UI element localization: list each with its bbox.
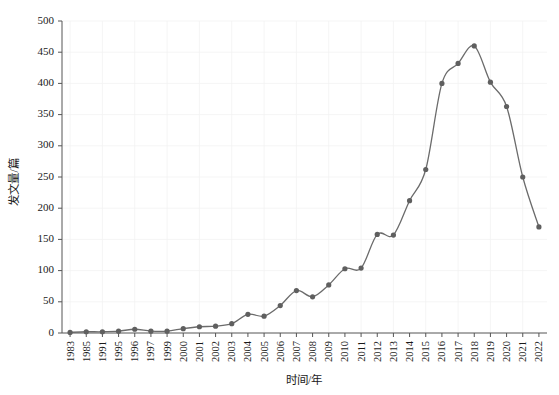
y-tick-label: 150 bbox=[38, 232, 55, 244]
x-tick-label: 2004 bbox=[242, 340, 253, 362]
data-point-marker bbox=[67, 330, 72, 335]
y-tick-label: 0 bbox=[49, 326, 55, 338]
x-tick-label: 2017 bbox=[453, 341, 464, 362]
y-axis-ticks-group bbox=[58, 21, 62, 333]
data-point-marker bbox=[488, 80, 493, 85]
data-point-marker bbox=[164, 329, 169, 334]
x-tick-label: 2002 bbox=[210, 341, 221, 362]
x-tick-label: 1983 bbox=[65, 341, 76, 362]
x-axis-title: 时间/年 bbox=[286, 373, 322, 386]
x-tick-label: 1999 bbox=[162, 341, 173, 362]
data-point-marker bbox=[245, 312, 250, 317]
x-tick-label: 2015 bbox=[420, 341, 431, 362]
data-point-marker bbox=[100, 329, 105, 334]
data-point-marker bbox=[391, 232, 396, 237]
x-tick-label: 2009 bbox=[323, 341, 334, 362]
data-point-marker bbox=[197, 324, 202, 329]
data-point-marker bbox=[278, 303, 283, 308]
data-point-marker bbox=[375, 232, 380, 237]
y-tick-label: 50 bbox=[43, 294, 55, 306]
y-tick-label: 100 bbox=[38, 263, 55, 275]
data-point-marker bbox=[261, 314, 266, 319]
x-tick-label: 2003 bbox=[226, 341, 237, 362]
data-point-marker bbox=[536, 224, 541, 229]
data-point-marker bbox=[181, 326, 186, 331]
x-tick-label: 1997 bbox=[145, 341, 156, 362]
data-point-marker bbox=[504, 104, 509, 109]
chart-figure: 050100150200250300350400450500 198319851… bbox=[0, 0, 559, 395]
x-tick-label: 2014 bbox=[404, 340, 415, 362]
data-point-marker bbox=[342, 266, 347, 271]
x-tick-label: 2006 bbox=[275, 341, 286, 362]
x-tick-label: 2016 bbox=[436, 341, 447, 362]
data-point-markers-group bbox=[67, 43, 541, 335]
x-tick-label: 1996 bbox=[129, 341, 140, 362]
x-tick-label: 2010 bbox=[339, 341, 350, 362]
x-tick-label: 2020 bbox=[501, 341, 512, 362]
x-tick-label: 2021 bbox=[517, 341, 528, 362]
x-tick-label: 2013 bbox=[388, 341, 399, 362]
data-point-marker bbox=[229, 321, 234, 326]
data-series-line bbox=[70, 46, 539, 333]
y-tick-label: 350 bbox=[38, 107, 55, 119]
x-tick-label: 2018 bbox=[469, 341, 480, 362]
x-tick-label: 2019 bbox=[485, 341, 496, 362]
x-tick-label: 2022 bbox=[533, 341, 544, 362]
data-point-marker bbox=[520, 174, 525, 179]
x-tick-label: 2001 bbox=[194, 341, 205, 362]
y-axis-title: 发文量/篇 bbox=[7, 158, 20, 205]
y-tick-label: 300 bbox=[38, 138, 55, 150]
data-point-marker bbox=[423, 167, 428, 172]
x-axis-ticks-group bbox=[70, 333, 539, 337]
y-tick-label: 450 bbox=[38, 45, 55, 57]
x-tick-label: 2012 bbox=[372, 341, 383, 362]
data-point-marker bbox=[84, 329, 89, 334]
x-tick-label: 2007 bbox=[291, 341, 302, 362]
data-point-marker bbox=[132, 327, 137, 332]
data-point-marker bbox=[358, 266, 363, 271]
x-tick-label: 1991 bbox=[97, 341, 108, 362]
data-point-marker bbox=[455, 61, 460, 66]
data-point-marker bbox=[407, 198, 412, 203]
y-tick-labels-group: 050100150200250300350400450500 bbox=[38, 14, 55, 338]
data-point-marker bbox=[148, 329, 153, 334]
data-point-marker bbox=[326, 282, 331, 287]
y-tick-label: 200 bbox=[38, 201, 55, 213]
y-tick-label: 250 bbox=[38, 170, 55, 182]
x-tick-label: 1985 bbox=[81, 341, 92, 362]
x-tick-label: 2011 bbox=[356, 341, 367, 362]
x-tick-label: 1995 bbox=[113, 341, 124, 362]
data-point-marker bbox=[294, 288, 299, 293]
y-tick-label: 500 bbox=[38, 14, 55, 26]
y-tick-label: 400 bbox=[38, 76, 55, 88]
x-tick-label: 2000 bbox=[178, 341, 189, 362]
line-chart-svg: 050100150200250300350400450500 198319851… bbox=[0, 0, 559, 395]
x-tick-label: 2005 bbox=[259, 341, 270, 362]
data-point-marker bbox=[472, 43, 477, 48]
x-tick-labels-group: 1983198519911995199619971999200020012002… bbox=[65, 340, 545, 362]
data-point-marker bbox=[116, 329, 121, 334]
data-point-marker bbox=[439, 81, 444, 86]
x-tick-label: 2008 bbox=[307, 341, 318, 362]
data-point-marker bbox=[213, 324, 218, 329]
data-point-marker bbox=[310, 294, 315, 299]
